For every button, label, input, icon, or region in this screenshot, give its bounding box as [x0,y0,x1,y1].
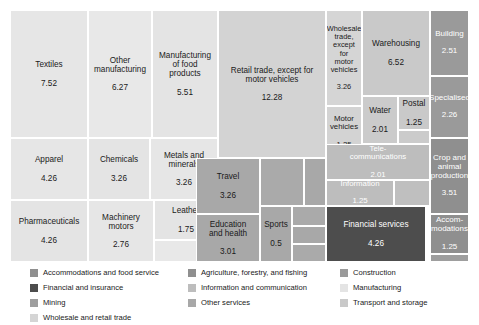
cell-value: 3.26 [176,178,192,187]
legend-item[interactable]: Construction [340,266,427,279]
treemap-cell-accommodations[interactable]: Accom- modations 1.25 [430,214,469,254]
cell-label: Education and health [209,220,247,238]
cell-value: 12.28 [262,93,283,102]
treemap-chart: Textiles 7.52 Other manufacturing 6.27 M… [0,0,479,325]
legend-swatch [30,299,38,307]
cell-label: Sports [264,220,288,229]
legend-item[interactable]: Manufacturing [340,281,427,294]
treemap-cell-crop-animal-production[interactable]: Crop and animal production 3.51 [430,138,469,214]
cell-label: Machinery motors [102,213,140,231]
legend-swatch [188,284,196,292]
treemap-cell-information[interactable]: Information 1.25 [326,180,394,206]
legend-item[interactable]: Accommodations and food service [30,266,159,279]
cell-label: Water [369,106,391,115]
cell-label: Manufacturing of food products [159,51,211,78]
cell-label: Information [340,180,379,188]
treemap-cell-other-services-block-a[interactable] [260,158,304,206]
treemap-cell-specialised[interactable]: Specialised 2.26 [430,76,469,138]
legend-column-3: Construction Manufacturing Transport and… [340,266,427,311]
cell-value: 4.26 [41,236,57,245]
cell-value: 3.26 [337,82,351,91]
legend-label: Mining [43,298,65,307]
treemap-cell-education-health[interactable]: Education and health 3.01 [196,214,260,262]
treemap-cell-sports[interactable]: Sports 0.5 [260,206,292,262]
cell-value: 7.52 [41,79,57,88]
legend-column-2: Agriculture, forestry, and fishing Infor… [188,266,307,311]
legend-swatch [30,269,38,277]
cell-label: Financial services [343,220,408,229]
cell-label: Crop and animal production [431,153,468,180]
legend-swatch [340,284,348,292]
treemap-cell-other-services-block-c[interactable] [292,206,326,226]
treemap-cell-pharmaceuticals[interactable]: Pharmaceuticals 4.26 [10,200,88,262]
cell-value: 2.51 [442,46,458,55]
legend-label: Information and communication [201,283,307,292]
cell-value: 1.25 [352,196,367,205]
treemap-cell-information-filler[interactable] [394,180,430,206]
legend-item[interactable]: Agriculture, forestry, and fishing [188,266,307,279]
treemap-cell-travel[interactable]: Travel 3.26 [196,158,260,214]
treemap-cell-machinery-motors[interactable]: Machinery motors 2.76 [88,200,154,262]
cell-value: 2.01 [370,170,385,179]
cell-label: Building [435,29,463,38]
treemap-cell-retail-trade[interactable]: Retail trade, except for motor vehicles … [218,10,326,158]
cell-value: 3.51 [442,188,458,197]
legend-item[interactable]: Information and communication [188,281,307,294]
cell-value: 6.27 [112,83,128,92]
legend-label: Construction [353,268,396,277]
cell-label: Travel [217,172,239,181]
legend-label: Wholesale and retail trade [43,313,131,322]
treemap-cell-other-services-block-e[interactable] [292,244,326,262]
cell-label: Pharmaceuticals [19,217,80,226]
cell-value: 2.01 [372,125,388,134]
cell-value: 2.26 [442,110,458,119]
treemap-cell-water[interactable]: Water 2.01 [362,96,398,144]
legend-label: Manufacturing [353,283,401,292]
legend-item[interactable]: Wholesale and retail trade [30,311,159,324]
treemap-plot-area: Textiles 7.52 Other manufacturing 6.27 M… [10,10,469,262]
treemap-cell-postal[interactable]: Postal 1.25 [398,96,430,130]
legend-item[interactable]: Mining [30,296,159,309]
treemap-cell-apparel[interactable]: Apparel 4.26 [10,138,88,200]
legend-item[interactable]: Financial and insurance [30,281,159,294]
treemap-cell-telecommunications[interactable]: Tele- communications 2.01 [326,144,430,180]
cell-value: 3.26 [111,174,127,183]
cell-value: 4.26 [41,174,57,183]
treemap-cell-other-manufacturing[interactable]: Other manufacturing 6.27 [88,10,152,138]
cell-label: Other manufacturing [94,56,146,74]
treemap-cell-wholesale-trade[interactable]: Wholesale trade, except for motor vehicl… [326,10,362,106]
treemap-cell-building[interactable]: Building 2.51 [430,10,469,76]
treemap-cell-mining[interactable] [430,254,469,262]
cell-value: 5.51 [177,88,193,97]
treemap-cell-warehousing[interactable]: Warehousing 6.52 [362,10,430,96]
legend-item[interactable]: Other services [188,296,307,309]
treemap-cell-food-products[interactable]: Manufacturing of food products 5.51 [152,10,218,138]
cell-label: Postal [403,99,426,108]
cell-label: Wholesale trade, except for motor vehicl… [327,24,362,74]
treemap-cell-transport-filler[interactable] [398,130,430,144]
treemap-cell-financial-services[interactable]: Financial services 4.26 [326,206,426,262]
cell-label: Tele- communications [350,144,406,161]
cell-value: 0.5 [270,239,281,248]
legend-swatch [188,299,196,307]
cell-value: 1.25 [406,118,422,127]
legend-item[interactable]: Transport and storage [340,296,427,309]
cell-value: 3.26 [220,191,236,200]
legend-column-1: Accommodations and food service Financia… [30,266,159,325]
legend-swatch [30,284,38,292]
cell-label: Chemicals [100,155,138,164]
treemap-cell-textiles[interactable]: Textiles 7.52 [10,10,88,138]
legend-swatch [340,269,348,277]
legend-label: Agriculture, forestry, and fishing [201,268,307,277]
legend-swatch [30,314,38,322]
cell-value: 1.75 [178,225,194,234]
cell-label: Warehousing [372,39,420,48]
cell-label: Accom- modations [431,215,468,233]
cell-label: Specialised [430,93,469,102]
legend-swatch [340,299,348,307]
treemap-cell-other-services-block-d[interactable] [292,226,326,244]
treemap-cell-other-services-block-b[interactable] [304,158,326,206]
cell-value: 4.26 [368,239,384,248]
cell-value: 6.52 [388,58,404,67]
treemap-cell-chemicals[interactable]: Chemicals 3.26 [88,138,150,200]
